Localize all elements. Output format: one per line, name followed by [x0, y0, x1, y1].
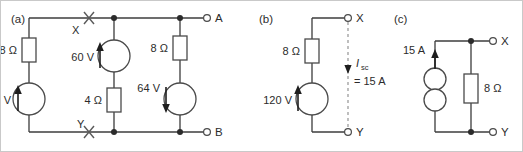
panel-a-source-64v [164, 83, 196, 115]
panel-b: (b) 8 Ω 120 V I sc = 15 A X Y [259, 12, 386, 138]
panel-c-resistor-8ohm-value: 8 Ω [484, 82, 501, 94]
panel-b-resistor-8ohm [305, 39, 319, 63]
panel-b-terminal-x-label: X [356, 12, 364, 24]
panel-c-junction-top [468, 38, 474, 44]
panel-b-terminal-y-label: Y [356, 126, 364, 138]
panel-a-label: (a) [11, 13, 25, 25]
panel-b-current-symbol: I [356, 57, 359, 69]
panel-b-source-120v [296, 83, 328, 115]
panel-a-resistor-8ohm-left-value: 8 Ω [1, 44, 17, 56]
panel-a-source-60v [98, 40, 130, 72]
panel-c-terminal-y[interactable] [490, 129, 497, 136]
panel-c-source-15a-arrow [431, 49, 439, 69]
panel-a-source-60v-value: 60 V [71, 51, 94, 63]
panel-a-junction-bottom-middle [111, 129, 117, 135]
panel-b-short-circuit-arrowhead [344, 65, 351, 74]
panel-c-resistor-8ohm [464, 74, 478, 103]
panel-a-terminal-a[interactable] [204, 15, 211, 22]
panel-a-resistor-4ohm [107, 88, 121, 112]
panel-a-junction-top-middle [111, 15, 117, 21]
panel-b-terminal-y[interactable] [345, 129, 352, 136]
panel-b-current-value: = 15 A [354, 75, 386, 87]
panel-a-resistor-8ohm-right-value: 8 Ω [151, 42, 168, 54]
panel-a-terminal-b[interactable] [204, 129, 211, 136]
panel-c-terminal-y-label: Y [501, 126, 509, 138]
panel-a-junction-top-right [177, 15, 183, 21]
panel-a-source-64v-value: 64 V [137, 82, 160, 94]
panel-a-resistor-4ohm-value: 4 Ω [85, 94, 102, 106]
panel-c-terminal-x[interactable] [490, 38, 497, 45]
panel-a-terminal-b-label: B [215, 126, 223, 138]
panel-a-node-x-label: X [72, 24, 80, 36]
panel-a-source-120v-value: 120 V [1, 94, 12, 106]
panel-b-source-120v-value: 120 V [263, 94, 292, 106]
panel-a-terminal-a-label: A [215, 12, 223, 24]
panel-b-resistor-8ohm-value: 8 Ω [283, 45, 300, 57]
panel-c: (c) 15 A 8 Ω X Y [394, 13, 509, 138]
panel-b-current-subscript: sc [361, 63, 369, 72]
panel-a-resistor-8ohm-right [173, 36, 187, 60]
panel-a-resistor-8ohm-left [22, 38, 36, 62]
panel-c-source-15a-value: 15 A [403, 44, 426, 56]
panel-a-junction-bottom-right [177, 129, 183, 135]
panel-c-label: (c) [394, 13, 408, 25]
circuit-figure: (a) 8 Ω 120 V X Y [0, 0, 523, 152]
panel-a-node-y-label: Y [77, 118, 85, 130]
panel-b-terminal-x[interactable] [345, 15, 352, 22]
panel-c-terminal-x-label: X [501, 35, 509, 47]
panel-c-source-15a [424, 68, 446, 111]
panel-b-label: (b) [259, 13, 273, 25]
panel-c-junction-bottom [468, 129, 474, 135]
panel-a: (a) 8 Ω 120 V X Y [1, 12, 223, 138]
